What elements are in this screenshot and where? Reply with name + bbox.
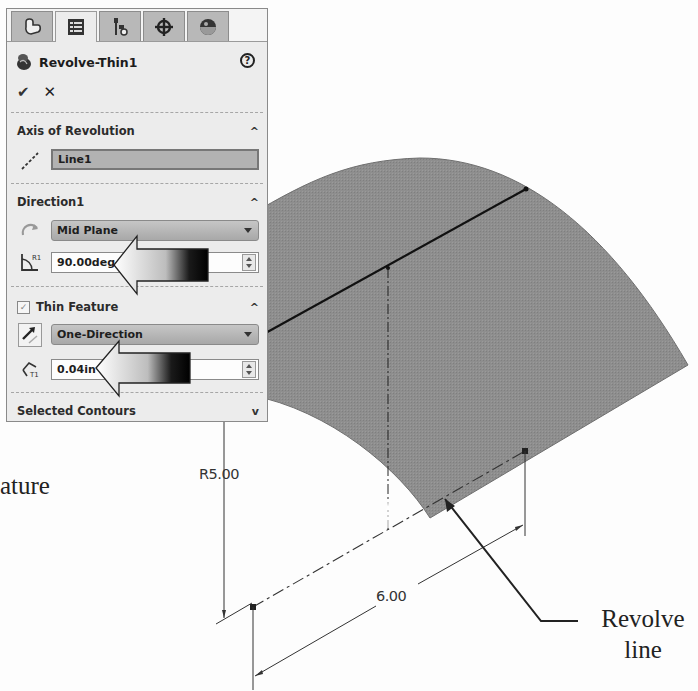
svg-text:R1: R1 [32,254,41,262]
dimxpert-icon [153,16,175,38]
thin-feature-checkbox[interactable]: ✓ [17,301,30,314]
length-dim-line-a [255,606,376,676]
radius-dimension[interactable]: R5.00 [199,466,239,482]
direction1-section-header[interactable]: Direction1 ^ [17,195,259,209]
angle-value: 90.00deg [57,256,115,269]
dropdown-arrow-icon [244,332,252,337]
thickness-spinner[interactable] [242,361,256,378]
help-button[interactable]: ? [240,53,255,68]
thin-direction-icon[interactable] [18,323,42,347]
collapse-chevron-icon[interactable]: ^ [250,196,259,209]
sketch-point [524,187,529,192]
expand-chevron-icon[interactable]: v [252,405,259,418]
divider [11,392,263,393]
axis-section-header[interactable]: Axis of Revolution ^ [17,124,259,138]
tab-property-manager[interactable] [55,11,97,42]
end-condition-value: Mid Plane [57,224,118,237]
reverse-direction-icon[interactable] [19,219,41,241]
axis-line-icon [19,150,41,172]
revolve-feature-icon [15,52,33,72]
revolved-surface[interactable] [250,158,688,518]
ok-button[interactable]: ✔ [17,83,30,101]
selected-contours-title: Selected Contours [17,404,136,418]
tab-feature-manager[interactable] [11,11,53,41]
property-manager-icon [65,16,87,38]
tab-display-manager[interactable] [187,11,229,41]
callout-leader [445,499,578,621]
divider [11,112,263,113]
axis-selection-field[interactable]: Line1 [51,149,259,170]
display-manager-icon [197,16,219,38]
configuration-manager-icon [109,16,131,38]
angle-spinner[interactable] [242,254,256,271]
manager-tabs [7,9,267,42]
end-condition-dropdown[interactable]: Mid Plane [51,220,259,241]
revolve-axis-line[interactable] [253,451,525,607]
feature-title-row: Revolve-Thin1 ? [15,51,259,73]
collapse-chevron-icon[interactable]: ^ [250,301,259,314]
callout-line-2: line [588,634,698,665]
feature-manager-icon [21,16,43,38]
axis-selection-value: Line1 [58,153,92,166]
ok-cancel-row: ✔ ✕ [17,83,56,101]
thickness-input[interactable]: 0.04in [51,359,259,380]
divider [11,183,263,184]
length-dimension[interactable]: 6.00 [376,588,406,604]
length-dim-line-b [418,525,523,584]
dropdown-arrow-icon [244,228,252,233]
thickness-value: 0.04in [57,363,96,376]
thickness-icon: T1 [19,358,41,380]
thin-feature-section-title: Thin Feature [36,300,118,314]
property-manager-panel: Revolve-Thin1 ? ✔ ✕ Axis of Revolution ^… [6,8,268,422]
collapse-chevron-icon[interactable]: ^ [250,125,259,138]
selected-contours-section-header[interactable]: Selected Contours v [17,404,259,418]
thin-type-value: One-Direction [57,328,143,341]
tab-dimxpert-manager[interactable] [143,11,185,41]
angle-icon: R1 [19,251,41,273]
svg-text:T1: T1 [29,371,39,379]
thin-feature-section-header[interactable]: ✓ Thin Feature ^ [17,300,259,314]
direction1-section-title: Direction1 [17,195,84,209]
thin-type-dropdown[interactable]: One-Direction [51,324,259,345]
revolve-line-callout: Revolve line [588,603,698,665]
radius-dim-ext [216,603,252,624]
tab-configuration-manager[interactable] [99,11,141,41]
callout-line-1: Revolve [588,603,698,634]
cancel-button[interactable]: ✕ [44,83,57,101]
angle-input[interactable]: 90.00deg [51,252,259,273]
axis-section-title: Axis of Revolution [17,124,135,138]
divider [11,286,263,287]
partial-caption: ature [0,470,50,501]
feature-title: Revolve-Thin1 [39,55,137,70]
